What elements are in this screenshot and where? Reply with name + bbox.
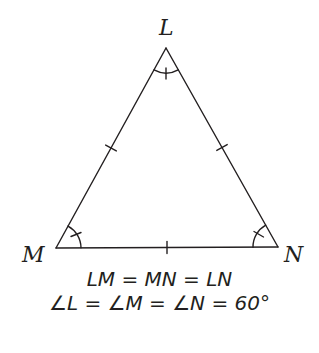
vertex-label-l: L <box>159 17 174 39</box>
vertex-label-m: M <box>22 244 45 266</box>
angle-arc-m <box>68 226 81 248</box>
angle-arc-n <box>253 225 266 247</box>
caption-angle-equality: ∠L = ∠M = ∠N = 60° <box>0 293 319 313</box>
tick-mark-ln <box>217 145 227 151</box>
tick-mark-lm <box>106 145 117 151</box>
vertex-label-n: N <box>284 244 303 266</box>
diagram-canvas: L M N LM = MN = LN ∠L = ∠M = ∠N = 60° <box>0 0 319 353</box>
caption-side-equality: LM = MN = LN <box>0 269 319 289</box>
